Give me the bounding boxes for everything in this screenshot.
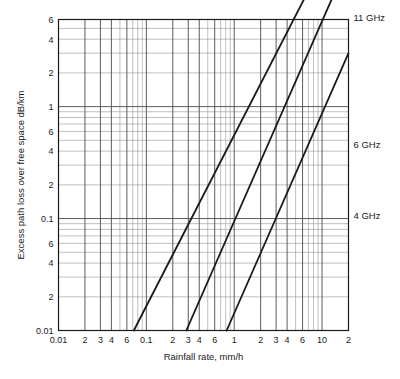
rain-attenuation-chart: 0.0123460.1234612346102 0.012460.1246124…: [0, 0, 400, 379]
y-tick-label: 0.1: [41, 214, 54, 224]
y-tick-label: 0.01: [36, 326, 54, 336]
x-axis-title: Rainfall rate, mm/h: [164, 351, 244, 362]
y-tick-label: 4: [48, 146, 53, 156]
x-tick-label: 2: [346, 335, 351, 345]
y-tick-label: 6: [48, 15, 53, 25]
chart-background: [0, 0, 400, 379]
series-label-6-ghz: 6 GHz: [354, 139, 381, 150]
y-tick-label: 4: [48, 35, 53, 45]
x-tick-label: 0.01: [50, 335, 68, 345]
x-tick-label: 6: [212, 335, 217, 345]
x-tick-label: 10: [317, 335, 327, 345]
x-tick-label: 4: [197, 335, 202, 345]
x-tick-label: 2: [258, 335, 263, 345]
x-tick-label: 6: [300, 335, 305, 345]
y-axis-title: Excess path loss over free space dB/km: [15, 90, 26, 259]
y-tick-label: 2: [48, 68, 53, 78]
series-label-11-ghz: 11 GHz: [354, 12, 386, 23]
x-tick-label: 4: [285, 335, 290, 345]
x-tick-label: 3: [186, 335, 191, 345]
y-tick-label: 2: [48, 180, 53, 190]
x-tick-label: 4: [109, 335, 114, 345]
y-tick-label: 2: [48, 292, 53, 302]
x-tick-label: 2: [82, 335, 87, 345]
series-label-4-ghz: 4 GHz: [354, 210, 381, 221]
x-tick-label: 6: [124, 335, 129, 345]
x-tick-label: 2: [170, 335, 175, 345]
y-tick-label: 4: [48, 258, 53, 268]
x-tick-label: 0.1: [140, 335, 153, 345]
y-tick-label: 6: [48, 127, 53, 137]
y-tick-label: 1: [48, 102, 53, 112]
x-tick-label: 3: [98, 335, 103, 345]
x-tick-label: 3: [274, 335, 279, 345]
x-tick-label: 1: [232, 335, 237, 345]
y-tick-label: 6: [48, 239, 53, 249]
